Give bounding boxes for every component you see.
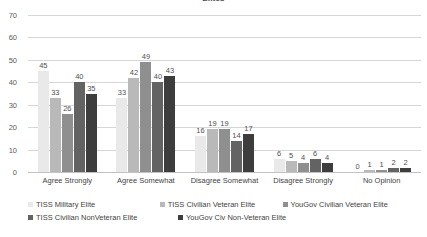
legend-label: TISS Civilian NonVeteran Elite — [36, 213, 137, 222]
bar-value-label: 33 — [51, 88, 59, 97]
bar[interactable] — [322, 163, 333, 172]
legend-label: YouGov Civ Non-Veteran Elite — [186, 213, 286, 222]
bar-value-label: 45 — [39, 61, 47, 70]
bar-item[interactable]: 17 — [243, 15, 254, 172]
bar-value-label: 2 — [404, 158, 408, 167]
bar-item[interactable]: 35 — [86, 15, 97, 172]
bar-item[interactable]: 1 — [376, 15, 387, 172]
bar[interactable] — [50, 98, 61, 172]
bar[interactable] — [195, 136, 206, 172]
bar-item[interactable]: 1 — [364, 15, 375, 172]
bar[interactable] — [286, 161, 297, 172]
x-axis-category-label: Disagree Somewhat — [185, 176, 264, 185]
y-axis-tick-label: 70 — [0, 11, 17, 20]
bar-item[interactable]: 2 — [388, 15, 399, 172]
bar-value-label: 16 — [196, 126, 204, 135]
bar-item[interactable]: 40 — [152, 15, 163, 172]
bar-item[interactable]: 6 — [274, 15, 285, 172]
bar[interactable] — [364, 170, 375, 172]
bar-item[interactable]: 33 — [116, 15, 127, 172]
bar[interactable] — [231, 141, 242, 172]
bar[interactable] — [274, 159, 285, 172]
bar-value-label: 40 — [154, 72, 162, 81]
bar-value-label: 0 — [356, 162, 360, 171]
bar-group-bars: 4533264035 — [28, 15, 107, 172]
legend-label: TISS Military Elite — [36, 200, 95, 209]
bar[interactable] — [298, 163, 309, 172]
bar-value-label: 17 — [244, 124, 252, 133]
bar-group-bars: 01122 — [342, 15, 421, 172]
bar-value-label: 26 — [63, 104, 71, 113]
bar-value-label: 1 — [380, 160, 384, 169]
bar-value-label: 33 — [118, 88, 126, 97]
bar[interactable] — [86, 94, 97, 173]
bar-item[interactable]: 45 — [38, 15, 49, 172]
bar[interactable] — [152, 82, 163, 172]
bar-item[interactable]: 33 — [50, 15, 61, 172]
x-axis-category-label: Agree Somewhat — [107, 176, 186, 185]
bar-group: 4533264035 — [28, 15, 107, 172]
bar-value-label: 14 — [232, 131, 240, 140]
chart-legend: TISS Military EliteTISS Civilian Veteran… — [28, 198, 423, 224]
bar-value-label: 6 — [313, 149, 317, 158]
bar-item[interactable]: 4 — [298, 15, 309, 172]
bar[interactable] — [164, 76, 175, 172]
bar-item[interactable]: 43 — [164, 15, 175, 172]
bar[interactable] — [310, 159, 321, 172]
bar[interactable] — [207, 129, 218, 172]
legend-item[interactable]: YouGov Civ Non-Veteran Elite — [178, 213, 318, 222]
bar-group-bars: 65464 — [264, 15, 343, 172]
bar-item[interactable]: 19 — [219, 15, 230, 172]
legend-item[interactable]: TISS Civilian NonVeteran Elite — [28, 213, 178, 222]
bar-item[interactable]: 0 — [352, 15, 363, 172]
y-axis-tick-label: 30 — [0, 100, 17, 109]
x-axis-category-labels: Agree StronglyAgree SomewhatDisagree Som… — [28, 176, 421, 185]
bar[interactable] — [219, 129, 230, 172]
bar-group: 3342494043 — [107, 15, 186, 172]
bar-item[interactable]: 6 — [310, 15, 321, 172]
bar-value-label: 6 — [277, 149, 281, 158]
bar-value-label: 19 — [208, 119, 216, 128]
y-axis-tick-label: 40 — [0, 78, 17, 87]
y-axis-tick-label: 0 — [0, 168, 17, 177]
bar-item[interactable]: 14 — [231, 15, 242, 172]
legend-row: TISS Civilian NonVeteran EliteYouGov Civ… — [28, 211, 423, 224]
bar[interactable] — [388, 168, 399, 172]
bar-value-label: 40 — [75, 72, 83, 81]
bar-value-label: 1 — [368, 160, 372, 169]
bar-item[interactable]: 49 — [140, 15, 151, 172]
bar[interactable] — [140, 62, 151, 172]
bar[interactable] — [38, 71, 49, 172]
bar[interactable] — [62, 114, 73, 172]
bar-chart: Elites 010203040506070 45332640353342494… — [0, 0, 427, 237]
x-axis-category-label: Agree Strongly — [28, 176, 107, 185]
bar-groups: 4533264035334249404316191914176546401122 — [28, 15, 421, 172]
bar-item[interactable]: 2 — [400, 15, 411, 172]
legend-item[interactable]: TISS Military Elite — [28, 200, 160, 209]
legend-item[interactable]: TISS Civilian Veteran Elite — [160, 200, 283, 209]
bar-group-bars: 3342494043 — [107, 15, 186, 172]
bar[interactable] — [400, 168, 411, 172]
legend-swatch-icon — [160, 202, 165, 207]
bar-item[interactable]: 4 — [322, 15, 333, 172]
y-axis-tick-label: 20 — [0, 123, 17, 132]
bar-item[interactable]: 19 — [207, 15, 218, 172]
bar[interactable] — [128, 78, 139, 172]
bar-value-label: 4 — [325, 153, 329, 162]
bar-item[interactable]: 42 — [128, 15, 139, 172]
bar-item[interactable]: 40 — [74, 15, 85, 172]
bar-group: 01122 — [342, 15, 421, 172]
legend-item[interactable]: YouGov Civilian Veteran Elite — [283, 200, 423, 209]
bar[interactable] — [74, 82, 85, 172]
gridline — [28, 172, 421, 173]
bar-item[interactable]: 16 — [195, 15, 206, 172]
bar[interactable] — [116, 98, 127, 172]
bar[interactable] — [243, 134, 254, 172]
bar-item[interactable]: 26 — [62, 15, 73, 172]
y-axis-tick-label: 60 — [0, 33, 17, 42]
plot-area: 010203040506070 453326403533424940431619… — [28, 15, 421, 172]
bar-item[interactable]: 5 — [286, 15, 297, 172]
bar[interactable] — [376, 170, 387, 172]
x-axis-category-label: Disagree Strongly — [264, 176, 343, 185]
legend-swatch-icon — [178, 215, 183, 220]
